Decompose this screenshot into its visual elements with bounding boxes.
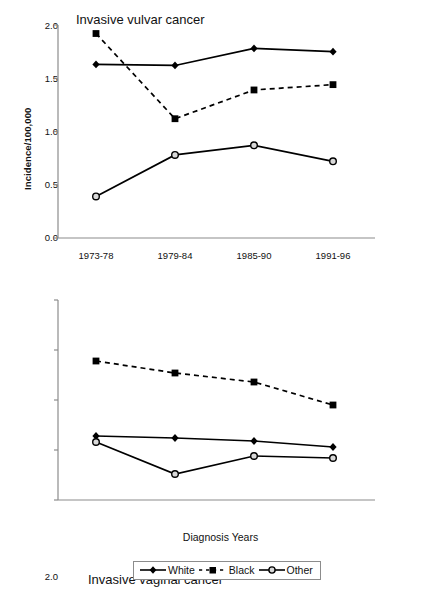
legend-swatch-black-icon — [199, 564, 227, 576]
data-point-white-2 — [250, 437, 257, 445]
data-point-white-0 — [92, 61, 99, 69]
chart-panel-vulvar: Invasive vulvar cancer Incidence/100,000… — [0, 0, 441, 272]
figure-incidence-by-race: Invasive vulvar cancer Incidence/100,000… — [0, 0, 441, 594]
y-tick-vaginal-2: 2.0 — [32, 571, 58, 582]
data-point-white-1 — [171, 434, 178, 442]
legend-label-black: Black — [228, 565, 256, 576]
series-line-other — [96, 442, 333, 474]
legend-entry-other: Other — [259, 564, 314, 576]
data-point-black-1 — [172, 370, 179, 377]
legend-swatch-white-icon — [140, 564, 166, 576]
legend: White Black Other — [133, 561, 321, 580]
data-point-other-0 — [93, 439, 100, 446]
data-point-black-0 — [93, 358, 100, 365]
legend-label-white: White — [167, 565, 196, 576]
data-point-black-0 — [93, 30, 100, 37]
plot-area-vaginal — [0, 276, 441, 536]
series-line-black — [96, 34, 333, 119]
data-point-other-2 — [251, 142, 258, 149]
series-line-black — [96, 361, 333, 405]
series-line-white — [96, 48, 333, 65]
data-point-other-1 — [172, 471, 179, 478]
data-point-black-3 — [330, 81, 337, 88]
data-point-white-2 — [250, 45, 257, 53]
legend-entry-white: White — [140, 564, 196, 576]
plot-area-vulvar — [0, 0, 441, 272]
data-point-other-2 — [251, 453, 258, 460]
data-point-other-1 — [172, 152, 179, 159]
legend-label-other: Other — [286, 565, 314, 576]
data-point-other-0 — [93, 193, 100, 200]
data-point-white-3 — [329, 443, 336, 451]
chart-panel-vaginal: Invasive vaginal cancer Incidence/100,00… — [0, 276, 441, 536]
legend-entry-black: Black — [199, 564, 256, 576]
series-line-white — [96, 436, 333, 447]
data-point-other-3 — [330, 158, 337, 165]
data-point-black-1 — [172, 115, 179, 122]
data-point-white-3 — [329, 48, 336, 56]
data-point-black-2 — [251, 87, 258, 94]
x-axis-title: Diagnosis Years — [0, 531, 441, 543]
data-point-other-3 — [330, 455, 337, 462]
data-point-black-2 — [251, 379, 258, 386]
data-point-black-3 — [330, 402, 337, 409]
data-point-white-1 — [171, 62, 178, 70]
legend-swatch-other-icon — [259, 564, 285, 576]
series-line-other — [96, 145, 333, 196]
